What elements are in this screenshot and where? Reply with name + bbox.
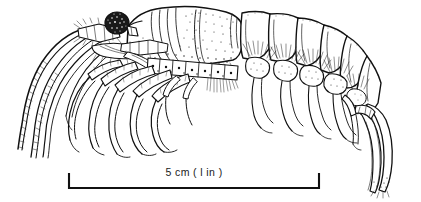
figure-root: 5 cm ( l in ) [0,0,421,202]
scale-bar-label: 5 cm ( l in ) [165,166,222,178]
crustacean-illustration: 5 cm ( l in ) [0,0,421,202]
tail-fan-group [342,95,392,198]
scale-bar: 5 cm ( l in ) [68,166,320,189]
